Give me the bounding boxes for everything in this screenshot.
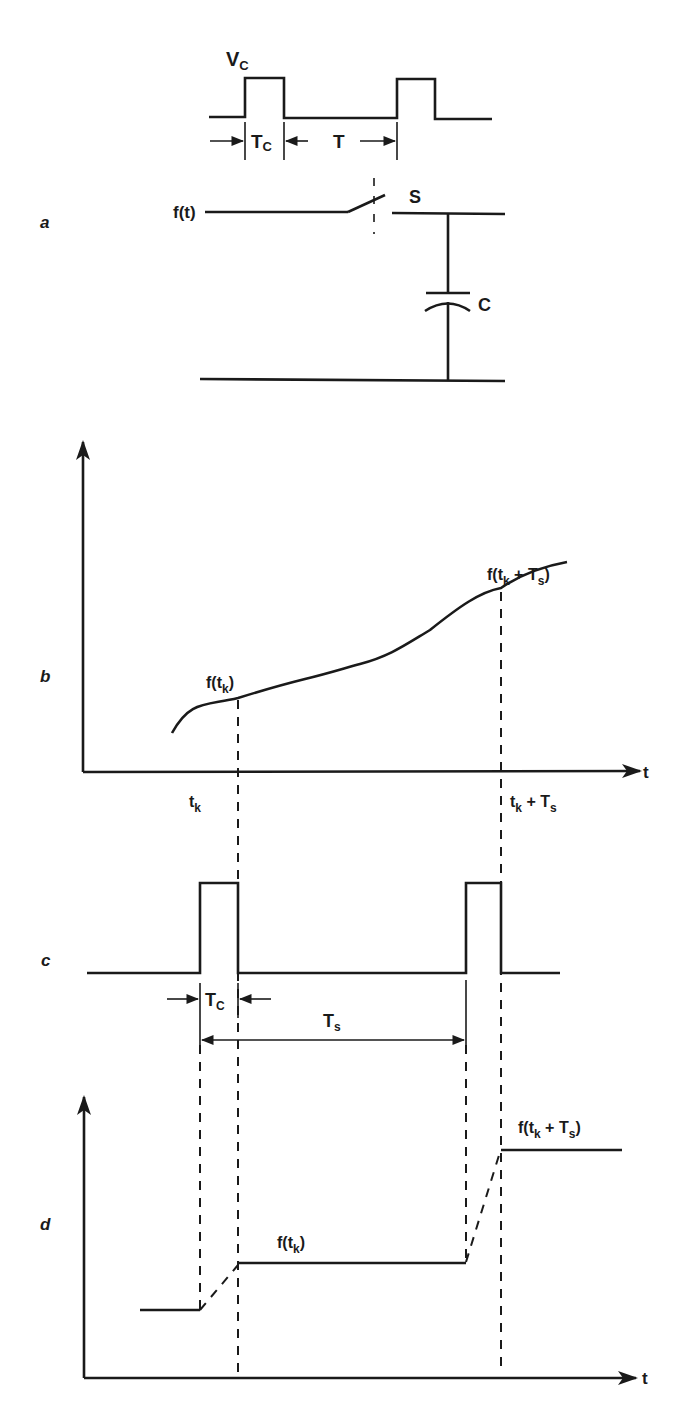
panel-a-label: a [40,213,49,232]
panel-c-label: c [41,951,51,970]
d-hold2-label: f(tk + Ts) [518,1119,581,1141]
c-ts-label: Ts [323,1011,341,1034]
track-ramp-2 [466,1152,500,1262]
panel-b: b t f(tk) f(tk + Ts) tk tk + Ts [40,442,649,815]
sample-and-hold-diagram: a VC TC T f(t) S C b t f(tk) [0,0,677,1422]
switch-label: S [409,187,421,207]
panel-a: a VC TC T f(t) S C [40,48,505,381]
sampling-pulse-waveform [87,883,560,973]
panel-d: d t f(tk) f(tk + Ts) [40,1097,648,1388]
b-x-axis-label: t [643,763,649,782]
panel-d-label: d [40,1215,51,1234]
ground-wire [200,379,505,381]
input-label: f(t) [173,203,196,222]
tc-label: TC [251,131,273,154]
b-tick1-label: tk [189,793,201,815]
c-tc-label: TC [205,990,225,1013]
b-tick2-label: tk + Ts [510,793,557,815]
output-wire [392,213,505,214]
vc-label: VC [226,48,249,73]
control-pulse-waveform [209,78,492,119]
capacitor-label: C [478,295,491,315]
switch-blade [348,195,385,212]
d-hold1-label: f(tk) [277,1234,305,1256]
panel-b-label: b [40,667,50,686]
b-x-axis [83,771,640,772]
panel-c: c TC Ts [41,883,560,1045]
b-sample1-label: f(tk) [206,674,234,696]
period-label: T [333,131,345,152]
track-ramp-1 [200,1265,238,1310]
d-x-axis-label: t [642,1369,648,1388]
